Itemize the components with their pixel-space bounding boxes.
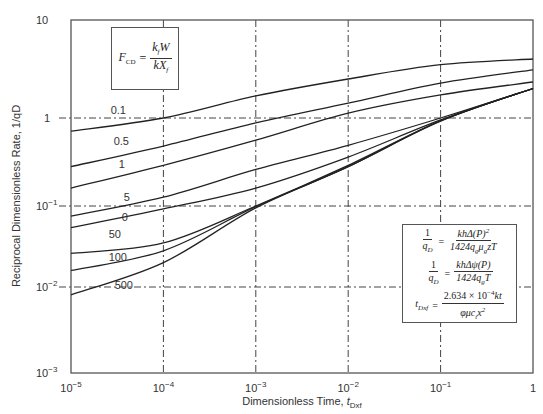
curve-label-5: 5: [124, 191, 130, 203]
equations-box: 1qD = khΔ(P)21424qgμgzT 1qD = khΔψ(P)142…: [402, 224, 517, 323]
curve-label-1: 1: [119, 158, 125, 170]
y-tick-label: 1: [44, 112, 50, 124]
fcd-fraction: kfW kXf: [150, 41, 171, 77]
equation-1: 1qD = khΔ(P)21424qgμgzT: [403, 225, 516, 257]
y-tick-labels: 10110−110−210−3: [36, 14, 58, 379]
equation-3: tDxf = 2.634 × 10−4ktφμctx2: [403, 289, 516, 321]
y-axis-title: Reciprocal Dimensionless Rate, 1/qD: [10, 105, 22, 287]
x-tick-label: 10−3: [245, 380, 267, 394]
curve-label-100: 100: [109, 251, 127, 263]
x-tick-labels: 10−510−410−310−210−11: [60, 380, 536, 394]
x-tick-label: 1: [530, 382, 536, 394]
equation-2: 1qD = khΔψ(P)1424qgT: [403, 257, 516, 289]
curve-label-0.1: 0.1: [111, 104, 126, 116]
curve-fcd-10: [71, 88, 533, 227]
x-tick-label: 10−4: [153, 380, 175, 394]
x-tick-label: 10−2: [338, 380, 360, 394]
curve-label-50: 50: [109, 228, 121, 240]
chart: 10−510−410−310−210−11 10110−110−210−3 0.…: [0, 0, 543, 414]
fcd-formula-box: FCD = kfW kXf: [111, 27, 179, 90]
curve-fcd-1: [71, 82, 533, 188]
fcd-lhs: FCD: [118, 50, 135, 66]
x-tick-label: 10−5: [60, 380, 82, 394]
x-tick-label: 10−1: [430, 380, 452, 394]
y-tick-label: 10−3: [36, 365, 58, 379]
curve-label-10: 0: [122, 211, 128, 223]
y-tick-label: 10: [36, 14, 48, 26]
curve-label-500: 500: [115, 279, 133, 291]
curve-fcd-5: [71, 88, 533, 216]
x-axis-title: Dimensionless Time, tDxf: [242, 395, 362, 410]
y-tick-label: 10−2: [36, 279, 58, 293]
y-tick-label: 10−1: [36, 198, 58, 212]
curve-label-0.5: 0.5: [114, 135, 129, 147]
